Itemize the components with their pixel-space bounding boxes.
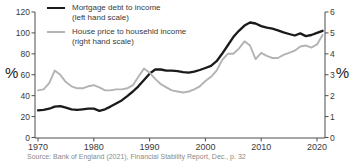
x-axis-tick-label: 1990 [140,142,160,152]
legend-label-mortgage: Mortgage debt to income(left hand scale) [72,3,161,22]
mortgage-line-swatch [47,7,65,9]
left-axis-tick-label: 20 [21,112,31,122]
right-axis-tick-label: 2 [330,91,335,101]
legend-item-house-price: House price to househld income(right han… [47,27,186,46]
x-axis-tick-label: 2010 [251,142,271,152]
chart-container: 0204060801001200123456197019801990200020… [0,0,350,161]
left-axis-unit-label: % [5,64,18,81]
x-axis-tick-label: 1970 [28,142,48,152]
left-axis-tick-label: 80 [21,49,31,59]
legend-label-house-price: House price to househld income(right han… [72,27,186,46]
x-axis-tick-label: 2020 [307,142,327,152]
right-axis-tick-label: 5 [330,28,335,38]
left-axis-tick-label: 100 [16,28,30,38]
legend-label-house-price-scale: (right hand scale) [72,37,134,46]
legend-label-mortgage-scale: (left hand scale) [72,13,129,22]
right-axis-tick-label: 3 [330,70,335,80]
right-axis-tick-label: 1 [330,112,335,122]
left-axis-tick-label: 60 [21,70,31,80]
legend-label-house-price-name: House price to househld income [72,27,186,36]
legend: Mortgage debt to income(left hand scale)… [47,3,186,46]
x-axis-tick-label: 1980 [84,142,104,152]
right-axis-tick-label: 6 [330,7,335,17]
right-axis-unit-label: % [336,64,349,81]
right-axis-tick-label: 0 [330,133,335,143]
source-note: Source: Bank of England (2021), Financia… [27,153,246,160]
right-axis-tick-label: 4 [330,49,335,59]
legend-item-mortgage: Mortgage debt to income(left hand scale) [47,3,186,22]
house-price-line-swatch [47,31,65,33]
left-axis-tick-label: 120 [16,7,30,17]
left-axis-tick-label: 40 [21,91,31,101]
legend-label-mortgage-name: Mortgage debt to income [72,3,161,12]
x-axis-tick-label: 2000 [195,142,215,152]
